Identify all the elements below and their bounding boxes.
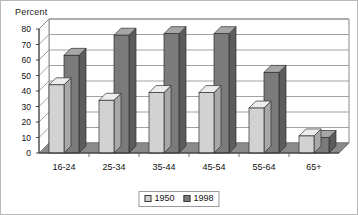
legend-label: 1998 xyxy=(194,193,214,204)
x-axis-tick-label: 25-34 xyxy=(102,162,125,172)
x-axis-tick-label: 35-44 xyxy=(152,162,175,172)
legend-swatch-icon xyxy=(144,195,151,202)
legend-label: 1950 xyxy=(154,193,174,204)
x-axis-tick-label: 65+ xyxy=(306,162,321,172)
x-axis-tick-label: 16-24 xyxy=(52,162,75,172)
x-axis-tick-labels: 16-2425-3435-4445-5455-6465+ xyxy=(1,1,358,215)
legend-item-1950: 1950 xyxy=(144,193,174,204)
chart-legend: 19501998 xyxy=(138,191,219,207)
x-axis-tick-label: 55-64 xyxy=(252,162,275,172)
legend-swatch-icon xyxy=(184,195,191,202)
x-axis-tick-label: 45-54 xyxy=(202,162,225,172)
legend-item-1998: 1998 xyxy=(184,193,214,204)
chart-frame: Percent 01020304050607080 16-2425-3435-4… xyxy=(0,0,358,215)
